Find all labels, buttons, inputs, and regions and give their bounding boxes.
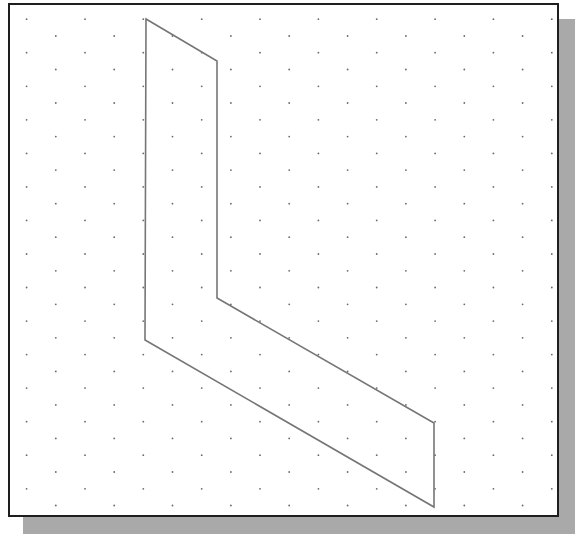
grid-dot [201, 454, 203, 456]
grid-dot [522, 69, 524, 71]
grid-dot [376, 85, 378, 87]
grid-dot [172, 69, 174, 71]
grid-dot [84, 153, 86, 155]
grid-dot [434, 186, 436, 188]
grid-dot [26, 320, 28, 322]
grid-dot [142, 220, 144, 222]
grid-dot [55, 136, 57, 138]
grid-dot [84, 287, 86, 289]
grid-dot [259, 220, 261, 222]
grid-dot [318, 253, 320, 255]
grid-dot [113, 136, 115, 138]
grid-dot [405, 303, 407, 305]
grid-dot [288, 169, 290, 171]
grid-dot [113, 404, 115, 406]
grid-dot [493, 52, 495, 54]
grid-dot [551, 488, 553, 490]
grid-dot [318, 320, 320, 322]
l-shaped-polygon[interactable] [145, 19, 434, 507]
grid-dot [463, 404, 465, 406]
grid-dot [55, 505, 57, 507]
grid-dot [434, 52, 436, 54]
drawing-stage [0, 0, 585, 544]
grid-dot [405, 35, 407, 37]
grid-dot [347, 438, 349, 440]
grid-dot [113, 169, 115, 171]
grid-dot [493, 488, 495, 490]
grid-dot [347, 169, 349, 171]
grid-dot [376, 253, 378, 255]
grid-dot [55, 438, 57, 440]
grid-dot [463, 35, 465, 37]
grid-dot [288, 203, 290, 205]
grid-dot [55, 303, 57, 305]
grid-dot [405, 203, 407, 205]
grid-dot [259, 119, 261, 121]
grid-dot [463, 303, 465, 305]
grid-dot [230, 169, 232, 171]
grid-dot [201, 387, 203, 389]
grid-dot [84, 421, 86, 423]
grid-dot [463, 236, 465, 238]
grid-dot [376, 320, 378, 322]
grid-dot [259, 85, 261, 87]
grid-dot [113, 303, 115, 305]
grid-dot [259, 287, 261, 289]
grid-dot [347, 69, 349, 71]
grid-dot [376, 287, 378, 289]
grid-dot [376, 18, 378, 20]
grid-dot [376, 186, 378, 188]
grid-dot [142, 354, 144, 356]
grid-dot [551, 421, 553, 423]
grid-dot [84, 320, 86, 322]
grid-dot [463, 505, 465, 507]
grid-dot [201, 421, 203, 423]
grid-dot [84, 220, 86, 222]
grid-dot [522, 404, 524, 406]
grid-dot [84, 454, 86, 456]
grid-dot [142, 52, 144, 54]
grid-dot [230, 203, 232, 205]
grid-dot [230, 404, 232, 406]
grid-dot [26, 52, 28, 54]
grid-dot [551, 220, 553, 222]
grid-dot [55, 203, 57, 205]
grid-dot [288, 236, 290, 238]
grid-dot [288, 404, 290, 406]
grid-dot [26, 488, 28, 490]
grid-dot [522, 337, 524, 339]
grid-dot [288, 505, 290, 507]
grid-dot [405, 236, 407, 238]
grid-dot [376, 52, 378, 54]
grid-dot [230, 270, 232, 272]
grid-dot [259, 52, 261, 54]
grid-dot [259, 153, 261, 155]
grid-dot [318, 454, 320, 456]
grid-dot [230, 337, 232, 339]
grid-dot [288, 303, 290, 305]
grid-dot [551, 454, 553, 456]
grid-dot [230, 136, 232, 138]
grid-dot [318, 18, 320, 20]
grid-dot [522, 102, 524, 104]
grid-dot [347, 136, 349, 138]
grid-dot [288, 69, 290, 71]
grid-dot [551, 85, 553, 87]
grid-dot [434, 320, 436, 322]
grid-dot [55, 236, 57, 238]
grid-dot [376, 454, 378, 456]
grid-dot [142, 454, 144, 456]
grid-dot [113, 69, 115, 71]
grid-dot [318, 488, 320, 490]
grid-dot [26, 186, 28, 188]
grid-dot [201, 354, 203, 356]
grid-dot [551, 354, 553, 356]
grid-dot [493, 253, 495, 255]
grid-dot [84, 119, 86, 121]
grid-dot [201, 488, 203, 490]
grid-dot [434, 18, 436, 20]
grid-dot [26, 119, 28, 121]
grid-dot [142, 85, 144, 87]
grid-dot [113, 102, 115, 104]
grid-dot [376, 119, 378, 121]
